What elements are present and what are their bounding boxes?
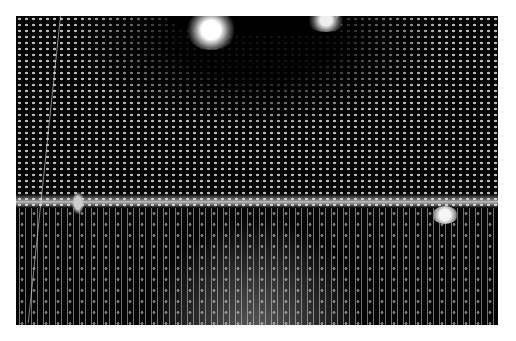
boat-with-workers (432, 206, 458, 224)
worker-figure (72, 192, 84, 214)
water-surface-line (16, 194, 498, 208)
reflection-glow (146, 216, 366, 325)
detector-photo (16, 16, 498, 325)
